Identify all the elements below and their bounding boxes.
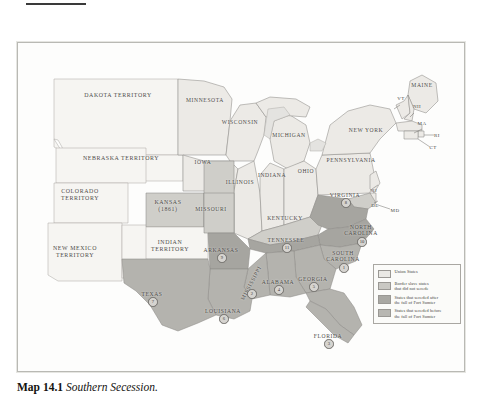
secession-order-badge: 11 bbox=[282, 243, 292, 253]
legend-item: Union States bbox=[378, 269, 456, 278]
legend-swatch bbox=[378, 309, 391, 318]
legend-rows: Union StatesBorder slave states that did… bbox=[378, 269, 456, 319]
secession-order-badge: 6 bbox=[219, 314, 229, 324]
caption-number: Map 14.1 bbox=[17, 381, 63, 393]
page-edge-line bbox=[26, 3, 86, 5]
secession-order-badge: 10 bbox=[357, 237, 367, 247]
secession-order-badge: 3 bbox=[324, 339, 334, 349]
secession-order-badge: 5 bbox=[309, 282, 319, 292]
map-figure: .u{fill:#eceae6;stroke:#8d8b87;stroke-wi… bbox=[0, 0, 479, 416]
map-inner: .u{fill:#eceae6;stroke:#8d8b87;stroke-wi… bbox=[18, 43, 464, 371]
legend-item: States that seceded before the fall of F… bbox=[378, 308, 456, 318]
secession-order-badge: 8 bbox=[341, 198, 351, 208]
legend-item: Border slave states that did not secede bbox=[378, 281, 456, 291]
caption-title: Southern Secession. bbox=[66, 381, 158, 393]
figure-caption: Map 14.1 Southern Secession. bbox=[17, 381, 463, 393]
legend-label: States that seceded before the fall of F… bbox=[395, 308, 442, 318]
legend-item: States that seceded after the fall of Fo… bbox=[378, 295, 456, 305]
secession-order-badge: 1 bbox=[339, 263, 349, 273]
legend-label: Border slave states that did not secede bbox=[395, 281, 429, 291]
secession-order-badge: 2 bbox=[247, 289, 257, 299]
legend-label: Union States bbox=[395, 269, 418, 274]
secession-order-badge: 4 bbox=[274, 285, 284, 295]
secession-order-badge: 9 bbox=[217, 253, 227, 263]
legend-swatch bbox=[378, 295, 391, 304]
legend-swatch bbox=[378, 270, 391, 279]
secession-order-badge: 7 bbox=[148, 297, 158, 307]
map-canvas: .u{fill:#eceae6;stroke:#8d8b87;stroke-wi… bbox=[17, 42, 465, 372]
legend-label: States that seceded after the fall of Fo… bbox=[395, 295, 439, 305]
legend-swatch bbox=[378, 282, 391, 291]
map-legend: Union StatesBorder slave states that did… bbox=[373, 264, 461, 324]
